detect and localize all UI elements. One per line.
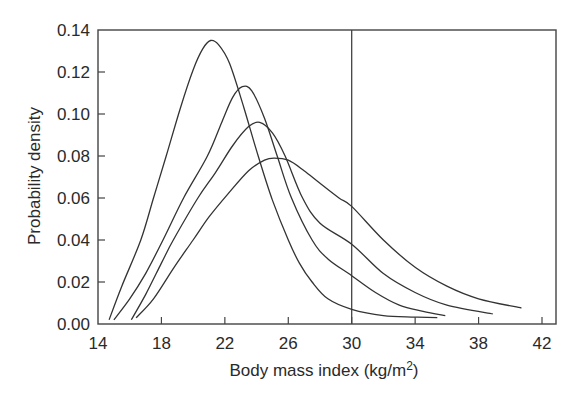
y-tick-label: 0.02 — [57, 273, 90, 292]
y-tick-label: 0.14 — [57, 21, 90, 40]
x-axis-label: Body mass index (kg/m2) — [229, 359, 418, 380]
density-curves — [109, 40, 521, 320]
x-axis-ticks: 1418222630343842 — [89, 317, 552, 353]
y-tick-label: 0.04 — [57, 231, 90, 250]
x-tick-label: 34 — [406, 334, 425, 353]
x-tick-label: 30 — [342, 334, 361, 353]
y-tick-label: 0.06 — [57, 189, 90, 208]
x-tick-label: 26 — [279, 334, 298, 353]
y-axis-label: Probability density — [25, 107, 44, 245]
chart: 1418222630343842 0.000.020.040.060.080.1… — [0, 0, 571, 399]
curve-1-line — [109, 40, 437, 320]
x-tick-label: 38 — [469, 334, 488, 353]
x-tick-label: 18 — [152, 334, 171, 353]
y-tick-label: 0.12 — [57, 63, 90, 82]
y-tick-label: 0.08 — [57, 147, 90, 166]
x-tick-label: 14 — [89, 334, 108, 353]
x-tick-label: 42 — [533, 334, 552, 353]
x-tick-label: 22 — [215, 334, 234, 353]
y-tick-label: 0.10 — [57, 105, 90, 124]
curve-3-line — [131, 122, 493, 320]
y-tick-label: 0.00 — [57, 315, 90, 334]
curve-4-line — [136, 158, 521, 318]
